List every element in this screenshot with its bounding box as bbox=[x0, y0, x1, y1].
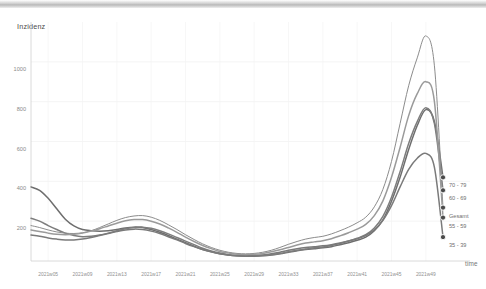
y-tick-label: 400 bbox=[4, 185, 26, 191]
series-line bbox=[31, 108, 443, 256]
series-line bbox=[31, 109, 443, 256]
legend-label[interactable]: 60 - 69 bbox=[449, 195, 466, 201]
series-end-marker[interactable] bbox=[440, 215, 445, 220]
window-title-bar bbox=[0, 0, 486, 8]
gridlines bbox=[31, 22, 470, 261]
y-tick-label: 800 bbox=[4, 106, 26, 112]
series-line bbox=[31, 82, 443, 255]
incidence-line-chart: Inzidenz time 2004006008001000 2021w0520… bbox=[0, 8, 486, 289]
plot-area bbox=[0, 8, 486, 289]
series-end-marker[interactable] bbox=[440, 188, 445, 193]
legend-label[interactable]: 70 - 79 bbox=[449, 182, 466, 188]
series-lines bbox=[31, 36, 443, 256]
y-tick-label: 200 bbox=[4, 225, 26, 231]
legend-label[interactable]: Gesamt bbox=[449, 213, 469, 219]
series-end-marker[interactable] bbox=[440, 205, 445, 210]
x-tick-label: 2021w49 bbox=[406, 272, 446, 277]
y-tick-label: 600 bbox=[4, 146, 26, 152]
legend-label[interactable]: 35 - 39 bbox=[449, 242, 466, 248]
y-tick-label: 1000 bbox=[4, 66, 26, 72]
series-end-marker[interactable] bbox=[440, 235, 445, 240]
series-end-marker[interactable] bbox=[440, 175, 445, 180]
legend-label[interactable]: 55 - 59 bbox=[449, 223, 466, 229]
